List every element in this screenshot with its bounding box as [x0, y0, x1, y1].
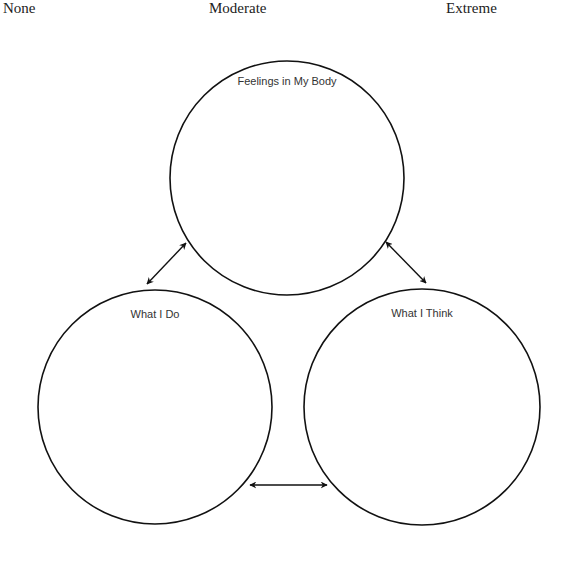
cycle-diagram: Feelings in My Body What I Do What I Thi…	[0, 0, 578, 566]
label-what-i-do: What I Do	[131, 308, 180, 320]
circle-feelings	[170, 61, 404, 295]
label-feelings: Feelings in My Body	[237, 75, 337, 87]
circle-what-i-think	[304, 289, 540, 525]
arrow-body-do-icon	[147, 243, 186, 284]
circle-what-i-do	[38, 290, 272, 524]
node-feelings-in-body: Feelings in My Body	[170, 61, 404, 295]
node-what-i-do: What I Do	[38, 290, 272, 524]
node-what-i-think: What I Think	[304, 289, 540, 525]
label-what-i-think: What I Think	[391, 307, 453, 319]
arrow-body-think-icon	[386, 242, 426, 283]
